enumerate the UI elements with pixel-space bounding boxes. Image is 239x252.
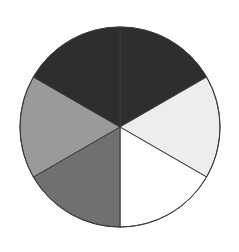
pie-slice-group — [20, 27, 220, 227]
figure-canvas — [0, 0, 239, 252]
pie-chart — [0, 0, 239, 252]
